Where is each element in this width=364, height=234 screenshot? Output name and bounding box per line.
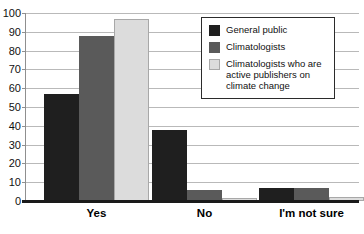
legend-swatch-icon: [209, 59, 220, 70]
gridline: [26, 13, 359, 14]
bar: [114, 19, 149, 201]
bar: [259, 188, 294, 201]
x-axis-category-label: Yes: [44, 207, 149, 219]
y-axis-tick-label: 30: [0, 139, 21, 151]
x-axis-category-label: I'm not sure: [259, 207, 364, 219]
bar: [294, 188, 329, 201]
legend-item-label: Climatologists: [226, 41, 285, 52]
y-axis-tick-label: 10: [0, 176, 21, 188]
legend-item: Climatologists: [209, 41, 327, 53]
y-axis-tick-label: 100: [0, 7, 21, 19]
y-axis-tick-label: 40: [0, 120, 21, 132]
y-axis-line: [25, 13, 26, 202]
bar: [152, 130, 187, 201]
x-axis-category-label: No: [152, 207, 257, 219]
y-axis-tick-label: 50: [0, 101, 21, 113]
legend-item-label: General public: [226, 24, 287, 35]
y-axis-tick-label: 70: [0, 63, 21, 75]
y-axis-tick-label: 90: [0, 26, 21, 38]
y-axis-tick-label: 20: [0, 157, 21, 169]
x-axis-baseline: [22, 200, 359, 203]
y-axis-tick-label: 80: [0, 45, 21, 57]
legend-swatch-icon: [209, 42, 220, 53]
bar: [44, 94, 79, 201]
y-axis-tick-label: 60: [0, 82, 21, 94]
legend-item: Climatologists who are active publishers…: [209, 58, 327, 91]
bar: [79, 36, 114, 201]
legend-swatch-icon: [209, 25, 220, 36]
y-axis-tick-label: 0: [0, 195, 21, 207]
legend-item-label: Climatologists who are active publishers…: [226, 58, 327, 91]
chart-legend: General public Climatologists Climatolog…: [201, 17, 335, 99]
legend-item: General public: [209, 24, 327, 36]
